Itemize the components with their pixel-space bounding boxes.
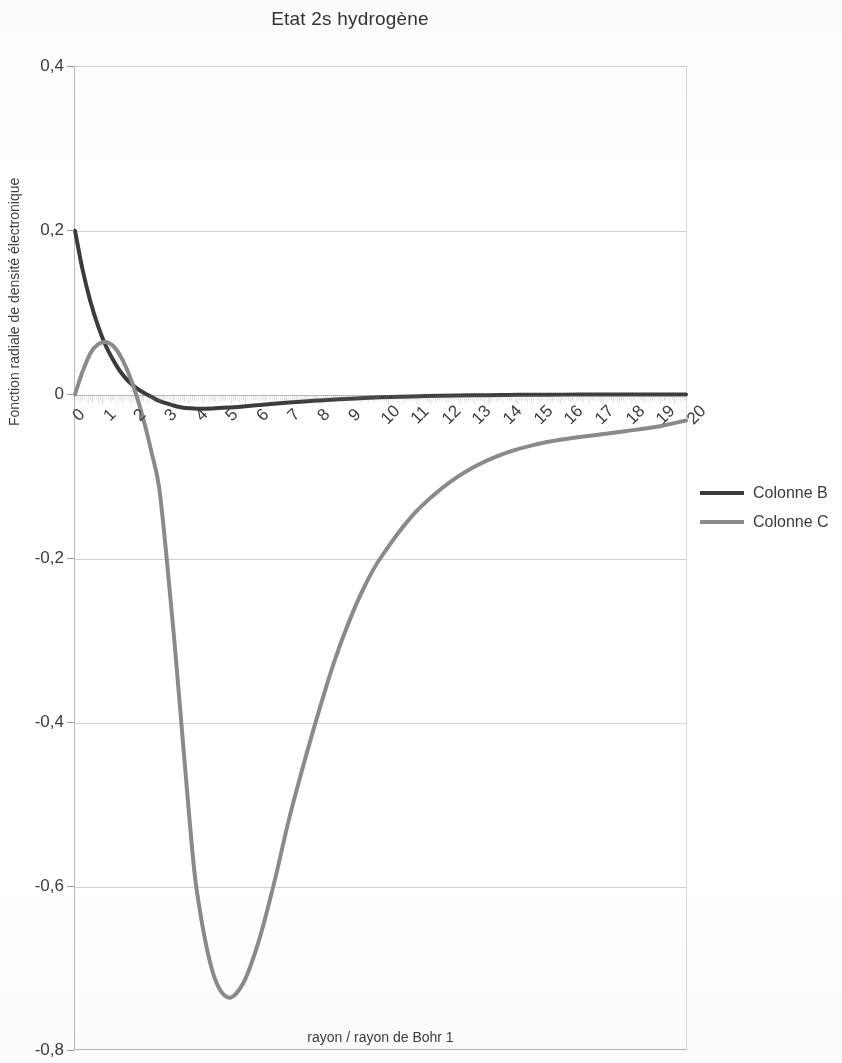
y-tick-mark bbox=[67, 722, 74, 723]
chart-legend: Colonne BColonne C bbox=[700, 478, 840, 536]
y-tick-label: 0 bbox=[0, 384, 64, 404]
chart-container: Etat 2s hydrogène Fonction radiale de de… bbox=[0, 0, 842, 1063]
legend-label: Colonne B bbox=[753, 484, 828, 502]
y-tick-mark bbox=[67, 230, 74, 231]
y-tick-label: -0,2 bbox=[0, 548, 64, 568]
y-axis-title: Fonction radiale de densité électronique bbox=[6, 86, 22, 426]
legend-item[interactable]: Colonne B bbox=[700, 478, 840, 507]
y-tick-mark bbox=[67, 558, 74, 559]
legend-label: Colonne C bbox=[753, 513, 829, 531]
y-tick-label: -0,6 bbox=[0, 876, 64, 896]
y-tick-label: -0,8 bbox=[0, 1040, 64, 1060]
y-tick-mark bbox=[67, 886, 74, 887]
y-tick-mark bbox=[67, 1050, 74, 1051]
legend-swatch-icon bbox=[700, 520, 744, 524]
series-line-1 bbox=[75, 231, 686, 409]
series-line-2 bbox=[75, 342, 686, 998]
plot-area bbox=[74, 66, 687, 1050]
legend-swatch-icon bbox=[700, 491, 744, 495]
x-axis-title: rayon / rayon de Bohr 1 bbox=[74, 1029, 687, 1045]
chart-title: Etat 2s hydrogène bbox=[0, 8, 700, 30]
plot-lines bbox=[75, 67, 686, 1049]
y-tick-label: 0,4 bbox=[0, 56, 64, 76]
y-tick-mark bbox=[67, 66, 74, 67]
y-tick-label: -0,4 bbox=[0, 712, 64, 732]
legend-item[interactable]: Colonne C bbox=[700, 507, 840, 536]
y-tick-mark bbox=[67, 394, 74, 395]
y-tick-label: 0,2 bbox=[0, 220, 64, 240]
